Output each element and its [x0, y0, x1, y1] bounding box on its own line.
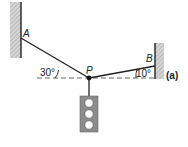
label-figure-a: (a) [166, 70, 178, 81]
lamp-bottom [85, 121, 93, 129]
angle-arc-30 [55, 70, 59, 78]
label-angle-30: 30° [40, 67, 55, 78]
statics-diagram: A B P 30° 10° (a) [0, 0, 188, 147]
label-point-b: B [146, 53, 153, 64]
point-p-node [87, 76, 92, 81]
left-wall [10, 2, 21, 58]
lamp-middle [85, 110, 93, 118]
lamp-top [85, 99, 93, 107]
label-angle-10: 10° [136, 68, 151, 79]
label-point-p: P [86, 65, 93, 76]
right-wall [155, 43, 164, 79]
label-point-a: A [22, 28, 30, 39]
traffic-light [80, 96, 98, 132]
